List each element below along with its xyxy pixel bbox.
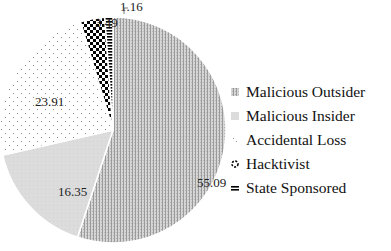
legend-label: Malicious Insider	[246, 107, 355, 125]
legend-item-hacktivist: Hacktivist	[230, 152, 365, 176]
legend-item-malicious-insider: Malicious Insider	[230, 104, 365, 128]
legend-item-state-sponsored: State Sponsored	[230, 176, 365, 200]
stripes-swatch-icon	[230, 183, 240, 193]
dots-swatch-icon	[230, 135, 240, 145]
legend-label: State Sponsored	[246, 179, 346, 197]
slice-value-label: 23.91	[35, 94, 64, 109]
solid-swatch-icon	[230, 111, 240, 121]
legend-label: Hacktivist	[246, 155, 310, 173]
pie-slices	[0, 17, 226, 243]
legend-label: Accidental Loss	[246, 131, 346, 149]
legend-item-accidental-loss: Accidental Loss	[230, 128, 365, 152]
legend-item-malicious-outsider: Malicious Outsider	[230, 80, 365, 104]
slice-value-label: 3.49	[95, 15, 118, 30]
pattern-swatch-icon	[230, 87, 240, 97]
slice-value-label: 1.16	[120, 0, 143, 14]
checker-swatch-icon	[230, 159, 240, 169]
slice-value-label: 16.35	[58, 184, 87, 199]
legend: Malicious Outsider Malicious Insider Acc…	[230, 80, 365, 200]
legend-label: Malicious Outsider	[246, 83, 365, 101]
slice-value-label: 55.09	[197, 175, 226, 190]
